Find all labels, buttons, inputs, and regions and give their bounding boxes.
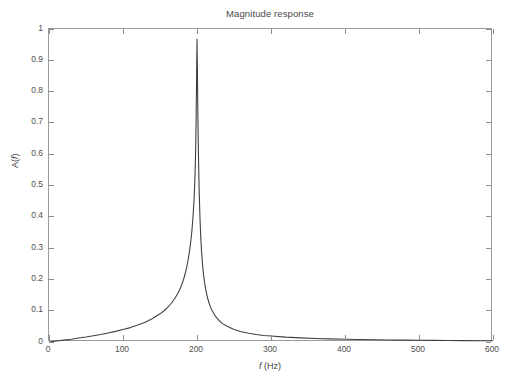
y-axis-label: A(f)	[10, 153, 20, 168]
x-tick-mark	[197, 29, 198, 34]
y-tick-mark	[49, 248, 54, 249]
x-tick-label: 500	[398, 344, 438, 354]
y-tick-mark	[486, 248, 491, 249]
x-tick-label: 100	[102, 344, 142, 354]
plot-area	[48, 28, 492, 341]
y-tick-mark	[486, 154, 491, 155]
y-tick-mark	[486, 310, 491, 311]
y-tick-mark	[49, 60, 54, 61]
x-tick-label: 200	[176, 344, 216, 354]
y-tick-mark	[49, 216, 54, 217]
x-tick-mark	[419, 335, 420, 340]
y-tick-mark	[486, 91, 491, 92]
y-tick-mark	[49, 154, 54, 155]
y-tick-mark	[49, 279, 54, 280]
x-tick-mark	[345, 335, 346, 340]
x-tick-label: 400	[324, 344, 364, 354]
y-tick-mark	[486, 60, 491, 61]
x-axis-label: f (Hz)	[48, 361, 492, 371]
y-tick-mark	[49, 310, 54, 311]
y-tick-mark	[486, 185, 491, 186]
y-tick-mark	[49, 29, 54, 30]
x-tick-mark	[419, 29, 420, 34]
y-axis-label-suffix: )	[10, 153, 20, 156]
y-tick-mark	[486, 216, 491, 217]
x-tick-mark	[271, 29, 272, 34]
y-tick-label: 0.5	[13, 179, 43, 189]
magnitude-response-curve	[49, 39, 493, 342]
y-tick-mark	[486, 342, 491, 343]
y-axis-label-prefix: A(	[10, 159, 20, 168]
y-tick-mark	[486, 122, 491, 123]
y-tick-label: 0.3	[13, 242, 43, 252]
x-tick-mark	[197, 335, 198, 340]
x-axis-label-unit: (Hz)	[262, 361, 282, 371]
y-tick-mark	[486, 29, 491, 30]
y-tick-mark	[49, 122, 54, 123]
x-tick-mark	[123, 29, 124, 34]
page-title: Magnitude response	[48, 8, 492, 19]
plot-svg	[49, 29, 493, 342]
x-tick-mark	[271, 335, 272, 340]
y-tick-label: 0.1	[13, 304, 43, 314]
x-tick-mark	[123, 335, 124, 340]
y-tick-label: 1	[13, 23, 43, 33]
y-tick-mark	[49, 342, 54, 343]
x-tick-mark	[345, 29, 346, 34]
y-tick-label: 0.9	[13, 54, 43, 64]
x-tick-label: 600	[472, 344, 512, 354]
y-tick-mark	[49, 185, 54, 186]
y-tick-label: 0.8	[13, 85, 43, 95]
y-tick-label: 0.7	[13, 116, 43, 126]
y-tick-mark	[486, 279, 491, 280]
x-tick-mark	[493, 29, 494, 34]
y-tick-mark	[49, 91, 54, 92]
x-tick-label: 300	[250, 344, 290, 354]
y-tick-label: 0.4	[13, 210, 43, 220]
figure-canvas: Magnitude response 00.10.20.30.40.50.60.…	[0, 0, 517, 387]
x-tick-label: 0	[28, 344, 68, 354]
y-axis-label-symbol: f	[10, 156, 20, 159]
x-tick-mark	[49, 29, 50, 34]
x-tick-mark	[49, 335, 50, 340]
y-tick-label: 0.2	[13, 273, 43, 283]
x-tick-mark	[493, 335, 494, 340]
